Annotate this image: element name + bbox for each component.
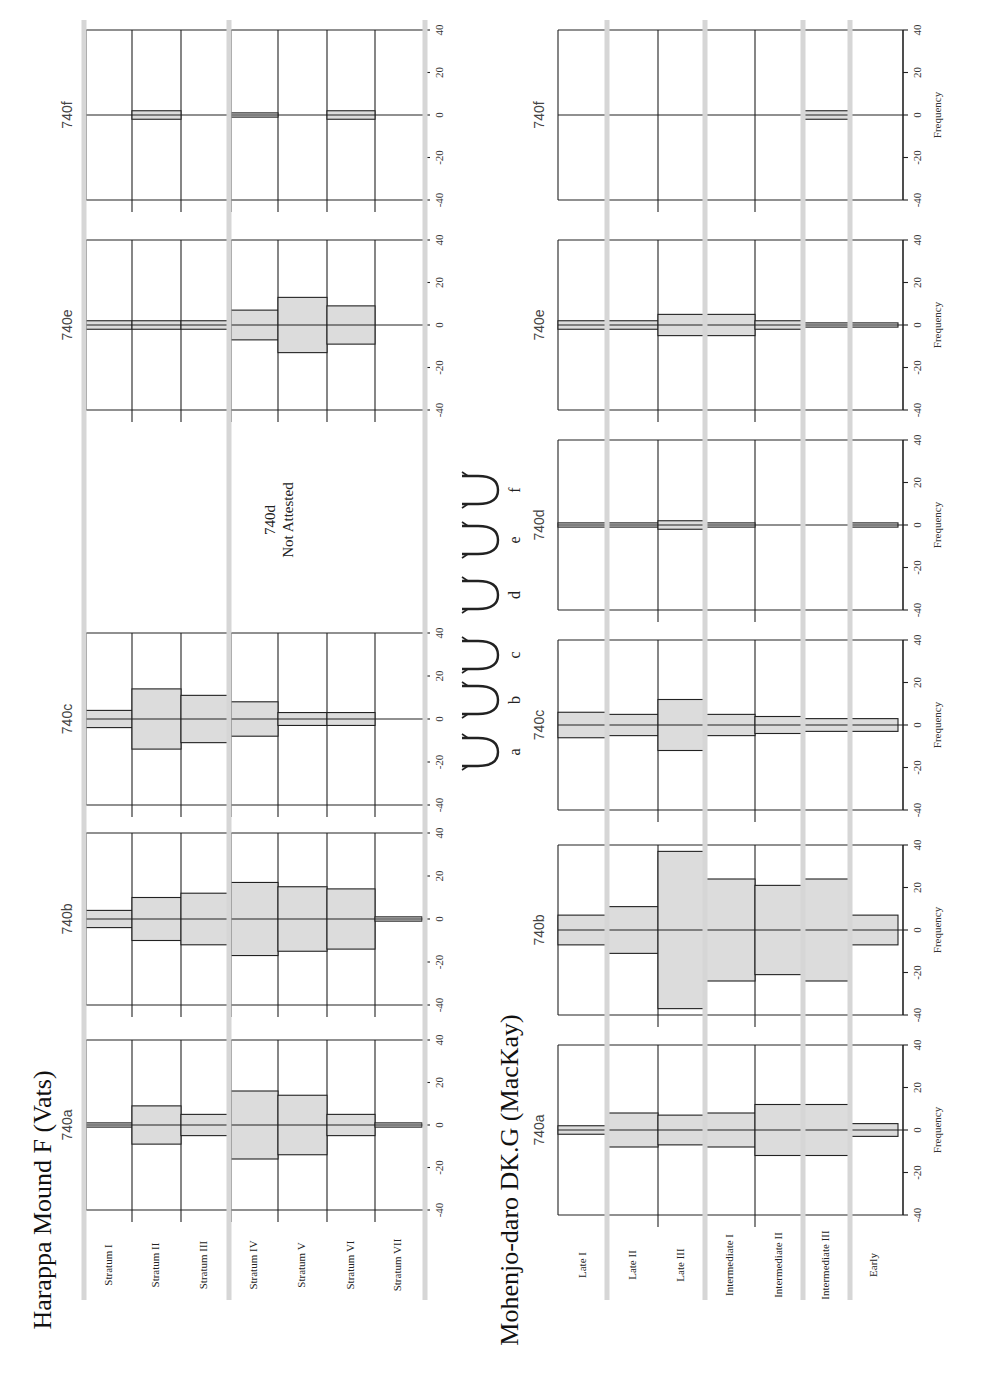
category-label: Stratum VII [391,1238,403,1291]
y-tick-label: 40 [911,839,923,851]
sign-variant-label: e [506,536,523,543]
y-tick-label: -20 [911,965,923,980]
axis-label-frequency: Frequency [931,701,943,748]
y-tick-label: -40 [911,802,923,817]
sign-variant-e-icon [462,522,498,558]
category-label: Stratum V [295,1242,307,1287]
y-tick-label: 40 [911,234,923,246]
y-tick-label: 0 [911,722,923,728]
y-tick-label: -20 [911,150,923,165]
not-attested-text: Not Attested [280,482,296,558]
axis-label-frequency: Frequency [931,501,943,548]
panel-740e: -40-2002040740e [59,234,445,422]
y-tick-label: 0 [911,1127,923,1133]
y-tick-label: -40 [911,1207,923,1222]
y-tick-label: 40 [433,1034,445,1046]
panel-740b: -40-2002040740b [59,827,445,1017]
category-label: Stratum II [149,1242,161,1287]
sign-variant-label: d [506,591,523,599]
sign-variant-f-icon [462,472,498,508]
category-label: Early [867,1253,879,1277]
sign-variant-label: f [506,487,523,493]
y-tick-label: -40 [911,602,923,617]
y-tick-label: 40 [911,434,923,446]
panel-title-740e: 740e [531,309,547,340]
category-label: Intermediate II [772,1232,784,1298]
category-label: Stratum III [197,1240,209,1289]
mohenjo-title: Mohenjo-daro DK.G (MacKay) [495,1014,524,1345]
y-tick-label: 20 [911,882,923,894]
y-tick-label: 20 [911,67,923,79]
panel-740f: -40-2002040740f [59,24,445,212]
category-label: Stratum I [102,1244,114,1286]
sign-variant-label: c [506,651,523,658]
panel-740e: -40-2002040Frequency740e [531,234,943,422]
axis-label-frequency: Frequency [931,91,943,138]
y-tick-label: 0 [911,112,923,118]
panel-740d: -40-2002040Frequency740d [531,434,943,622]
sign-variant-c-icon [462,637,498,673]
y-tick-label: 40 [433,627,445,639]
y-tick-label: -20 [911,760,923,775]
y-tick-label: -40 [433,797,445,812]
y-tick-label: 20 [911,677,923,689]
y-tick-label: -40 [911,1007,923,1022]
y-tick-label: 20 [911,277,923,289]
y-tick-label: 0 [433,322,445,328]
y-tick-label: 0 [433,716,445,722]
y-tick-label: -40 [433,192,445,207]
panel-title-740e: 740e [59,309,75,340]
category-label: Late II [626,1250,638,1280]
axis-label-frequency: Frequency [931,301,943,348]
y-tick-label: 40 [433,24,445,36]
y-tick-label: -20 [433,150,445,165]
y-tick-label: 20 [911,477,923,489]
y-tick-label: -20 [433,954,445,969]
sign-variant-label: b [506,696,523,704]
y-tick-label: 40 [911,1039,923,1051]
panel-740a: -40-2002040740a [59,1034,445,1222]
y-tick-label: 0 [433,916,445,922]
y-tick-label: -20 [911,1165,923,1180]
sign-variant-label: a [506,748,523,755]
y-tick-label: 20 [911,1082,923,1094]
y-tick-label: -40 [911,192,923,207]
y-tick-label: -20 [911,360,923,375]
not-attested-series: 740d [262,505,278,536]
category-label: Stratum VI [344,1240,356,1289]
y-tick-label: 20 [433,870,445,882]
y-tick-label: -20 [433,360,445,375]
category-label: Late I [576,1252,588,1278]
y-tick-label: -20 [911,560,923,575]
panel-title-740a: 740a [531,1114,547,1145]
panel-title-740f: 740f [531,101,547,128]
battleship-chart: -40-2002040740a-40-2002040740b-40-200204… [0,0,985,1390]
y-tick-label: 20 [433,277,445,289]
panel-740c: -40-2002040Frequency740c [531,634,943,822]
sign-variant-d-icon [462,577,498,613]
y-tick-label: 40 [433,234,445,246]
harappa-title: Harappa Mound F (Vats) [28,1070,57,1329]
axis-label-frequency: Frequency [931,1106,943,1153]
y-tick-label: 0 [433,112,445,118]
y-tick-label: 0 [911,322,923,328]
category-label: Late III [674,1248,686,1282]
y-tick-label: -40 [433,402,445,417]
y-tick-label: 0 [911,522,923,528]
y-tick-label: -40 [433,1202,445,1217]
y-tick-label: -20 [433,754,445,769]
panel-title-740b: 740b [59,903,75,934]
panel-title-740a: 740a [59,1109,75,1140]
sign-variant-b-icon [462,682,498,718]
category-label: Intermediate I [723,1234,735,1296]
mohenjo-group: -40-2002040Frequency740a-40-2002040Frequ… [531,20,943,1300]
y-tick-label: 40 [911,24,923,36]
y-tick-label: -40 [911,402,923,417]
y-tick-label: 0 [911,927,923,933]
axis-label-frequency: Frequency [931,906,943,953]
y-tick-label: 20 [433,67,445,79]
panel-title-740c: 740c [531,710,547,740]
panel-740f: -40-2002040Frequency740f [531,24,943,212]
y-tick-label: 0 [433,1122,445,1128]
panel-title-740d: 740d [531,509,547,540]
